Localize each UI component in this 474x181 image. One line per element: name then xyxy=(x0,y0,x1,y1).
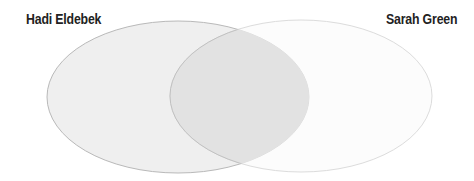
venn-diagram xyxy=(0,0,474,181)
